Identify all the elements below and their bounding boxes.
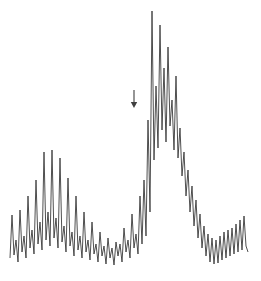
spectrum-figure [0,0,261,281]
spectrum-trace-svg [0,0,261,281]
